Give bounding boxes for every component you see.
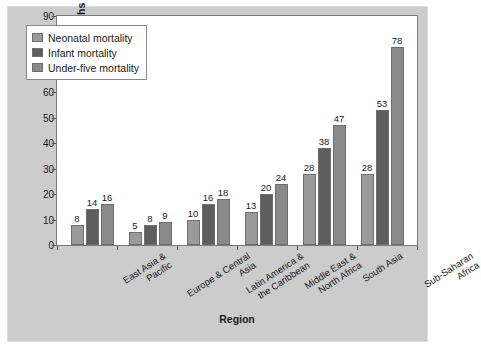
- bar[interactable]: [303, 174, 316, 245]
- chart-figure: Deaths per 1,000 Live Births 01020304050…: [7, 6, 428, 342]
- x-axis-tick-label: Sub-SaharanAfrica: [422, 250, 481, 299]
- bar[interactable]: [217, 199, 230, 245]
- bar[interactable]: [202, 204, 215, 245]
- bar[interactable]: [361, 174, 374, 245]
- bar-slot: 16: [202, 16, 215, 245]
- bar-value-label: 16: [102, 192, 113, 203]
- y-axis-tick-label: 20: [32, 189, 54, 200]
- bar[interactable]: [376, 110, 389, 245]
- x-axis-tick-label: South Asia: [360, 250, 404, 284]
- bar-value-label: 38: [319, 136, 330, 147]
- x-axis-tick-label: Europe & CentralAsia: [185, 250, 258, 308]
- legend-label: Under-five mortality: [48, 62, 139, 74]
- bar[interactable]: [275, 184, 288, 245]
- x-axis-tick-label: East Asia &Pacific: [121, 250, 174, 295]
- y-axis-tick-label: 90: [32, 11, 54, 22]
- bar[interactable]: [260, 194, 273, 245]
- y-axis-tick-label: 40: [32, 138, 54, 149]
- bar-value-label: 13: [246, 200, 257, 211]
- bar-group: 283847: [303, 16, 346, 245]
- bar-slot: 18: [217, 16, 230, 245]
- bar-value-label: 28: [304, 162, 315, 173]
- bar-value-label: 8: [74, 213, 79, 224]
- bar[interactable]: [129, 232, 142, 245]
- bar-value-label: 9: [162, 210, 167, 221]
- bar[interactable]: [245, 212, 258, 245]
- bar-slot: 47: [333, 16, 346, 245]
- bar-slot: 20: [260, 16, 273, 245]
- legend-item[interactable]: Neonatal mortality: [32, 30, 139, 45]
- bar[interactable]: [318, 148, 331, 245]
- bar-slot: 28: [303, 16, 316, 245]
- chart-legend: Neonatal mortalityInfant mortalityUnder-…: [26, 25, 147, 80]
- legend-swatch-icon: [32, 33, 43, 42]
- bar[interactable]: [144, 225, 157, 245]
- y-axis-tick-label: 10: [32, 214, 54, 225]
- bar[interactable]: [159, 222, 172, 245]
- legend-label: Neonatal mortality: [48, 32, 133, 44]
- bar-slot: 13: [245, 16, 258, 245]
- bar-value-label: 24: [276, 172, 287, 183]
- bar[interactable]: [101, 204, 114, 245]
- legend-item[interactable]: Under-five mortality: [32, 60, 139, 75]
- bar-slot: 78: [391, 16, 404, 245]
- x-axis-tick-label: Middle East &North Africa: [302, 250, 363, 300]
- bar[interactable]: [391, 47, 404, 245]
- bar-value-label: 20: [261, 182, 272, 193]
- bar-slot: 24: [275, 16, 288, 245]
- bar-value-label: 14: [87, 197, 98, 208]
- bar-value-label: 28: [362, 162, 373, 173]
- bar-value-label: 16: [203, 192, 214, 203]
- bar-group: 101618: [187, 16, 230, 245]
- bar[interactable]: [86, 209, 99, 245]
- bar-slot: 38: [318, 16, 331, 245]
- y-axis-tick-label: 0: [32, 240, 54, 251]
- bar[interactable]: [333, 125, 346, 245]
- legend-swatch-icon: [32, 63, 43, 72]
- bar-value-label: 8: [147, 213, 152, 224]
- bar-value-label: 18: [218, 187, 229, 198]
- y-axis-tick-label: 50: [32, 112, 54, 123]
- bar-slot: 9: [159, 16, 172, 245]
- bar-value-label: 5: [132, 220, 137, 231]
- y-axis-tick-label: 30: [32, 163, 54, 174]
- legend-label: Infant mortality: [48, 47, 117, 59]
- bar-value-label: 78: [392, 35, 403, 46]
- x-axis-tick-label: Latin America &the Caribbean: [244, 250, 312, 305]
- bar-value-label: 53: [377, 98, 388, 109]
- legend-swatch-icon: [32, 48, 43, 57]
- x-axis-tick-label-line: South Asia: [360, 250, 404, 284]
- x-axis-tick-labels: East Asia &PacificEurope & CentralAsiaLa…: [56, 248, 418, 310]
- bar-value-label: 47: [334, 113, 345, 124]
- y-axis-tick-label: 60: [32, 87, 54, 98]
- bar-group: 285378: [361, 16, 404, 245]
- bar-slot: 10: [187, 16, 200, 245]
- bar-group: 132024: [245, 16, 288, 245]
- bar-value-label: 10: [188, 208, 199, 219]
- bar[interactable]: [187, 220, 200, 245]
- bar-slot: 28: [361, 16, 374, 245]
- legend-item[interactable]: Infant mortality: [32, 45, 139, 60]
- x-axis-title: Region: [56, 313, 418, 325]
- bar-slot: 53: [376, 16, 389, 245]
- bar[interactable]: [71, 225, 84, 245]
